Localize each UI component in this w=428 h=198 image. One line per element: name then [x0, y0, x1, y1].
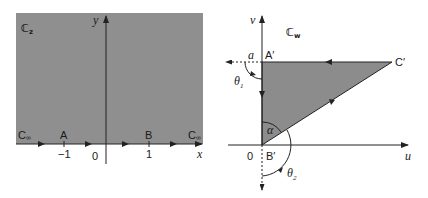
a-prime-label: A′	[265, 49, 274, 61]
point-a-label: A	[60, 129, 68, 141]
theta2-label: θ2	[287, 166, 297, 182]
tick-label-minus-one: −1	[58, 148, 71, 160]
w-origin-label: 0	[247, 150, 253, 162]
c-prime-label: C′	[395, 56, 405, 68]
z-plane: ℂz y x 0 A −1 B 1 C∞ C∞	[16, 13, 203, 164]
theta1-arc	[245, 62, 262, 79]
v-axis-label: v	[250, 13, 256, 27]
tick-label-one: 1	[146, 148, 152, 160]
w-plane: ℂw v u 0 A′ B′ C′ a θ1 α θ2	[226, 13, 411, 190]
alpha-label: α	[267, 123, 274, 137]
w-plane-label: ℂw	[286, 26, 301, 40]
z-origin-label: 0	[92, 150, 98, 162]
a-value-label: a	[248, 48, 254, 62]
conformal-mapping-diagram: ℂz y x 0 A −1 B 1 C∞ C∞ ℂw v u	[0, 0, 428, 198]
upper-half-plane-region	[16, 13, 203, 144]
b-prime-label: B′	[266, 150, 275, 162]
arc-arrow-icon	[250, 71, 256, 76]
theta1-label: θ1	[234, 74, 243, 90]
u-axis-label: u	[405, 149, 411, 163]
triangle-region	[262, 62, 392, 145]
point-b-label: B	[145, 129, 152, 141]
x-axis-label: x	[196, 147, 203, 161]
y-axis-label: y	[92, 13, 99, 27]
